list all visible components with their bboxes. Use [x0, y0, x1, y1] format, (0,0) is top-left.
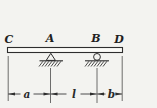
arrowhead-left-b [97, 93, 104, 96]
pin-support-icon [39, 53, 63, 66]
dimension-label-b: b [108, 88, 115, 100]
arrowhead-right-b [115, 93, 122, 96]
dimension-line-l: l [51, 88, 97, 100]
point-label-D: D [113, 33, 124, 46]
point-label-A: A [45, 32, 55, 45]
beam [8, 48, 123, 53]
dimension-label-a: a [24, 88, 31, 100]
ground-hatching-B [85, 61, 107, 66]
dimension-label-l: l [72, 88, 76, 100]
arrowhead-left-l [51, 93, 58, 96]
dimension-line-a: a [8, 88, 50, 100]
ground-hatching-A [39, 61, 61, 66]
arrowhead-right-a [44, 93, 51, 96]
dimension-line-b: b [97, 88, 122, 100]
point-label-B: B [90, 32, 100, 45]
roller-support-icon [85, 54, 109, 67]
beam-diagram-canvas: C A B D [0, 0, 157, 108]
point-label-C: C [5, 33, 14, 46]
beam-diagram: C A B D [0, 0, 157, 108]
arrowhead-left-a [8, 93, 15, 96]
arrowhead-right-l [90, 93, 97, 96]
